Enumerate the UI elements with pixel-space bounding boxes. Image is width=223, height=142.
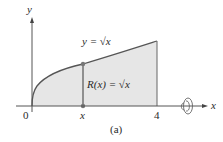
x-axis-arrow-icon [202,104,208,108]
y-axis-arrow-icon [30,17,34,23]
radius-top-point [81,62,85,66]
figure-graphics [0,0,223,142]
radius-label: R(x) = √x [87,79,130,90]
x-axis-label: x [211,100,216,111]
curve-label: y = √x [82,36,111,47]
tick-x: x [80,110,85,121]
tick-origin: 0 [23,110,29,121]
solid-of-revolution-figure: y x y = √x R(x) = √x 0 x 4 (a) [0,0,223,142]
y-axis-label: y [27,4,32,15]
figure-caption: (a) [110,124,122,135]
shaded-region [32,41,157,106]
tick-four: 4 [154,110,160,121]
